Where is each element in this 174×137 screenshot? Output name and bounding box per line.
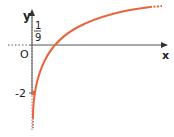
- origin-label: O: [20, 48, 29, 61]
- fraction-numerator: 1: [35, 20, 41, 31]
- minus-two-label: -2: [15, 87, 26, 100]
- function-curve: [33, 7, 150, 118]
- point-marker: [31, 91, 35, 95]
- graph: y x O 1 9 -2: [0, 0, 174, 137]
- x-axis-arrow-icon: [161, 42, 168, 48]
- y-axis-label: y: [23, 9, 31, 23]
- fraction-denominator: 9: [35, 32, 41, 43]
- x-axis-label: x: [162, 49, 169, 62]
- curve-dashed-end: [150, 6, 162, 7]
